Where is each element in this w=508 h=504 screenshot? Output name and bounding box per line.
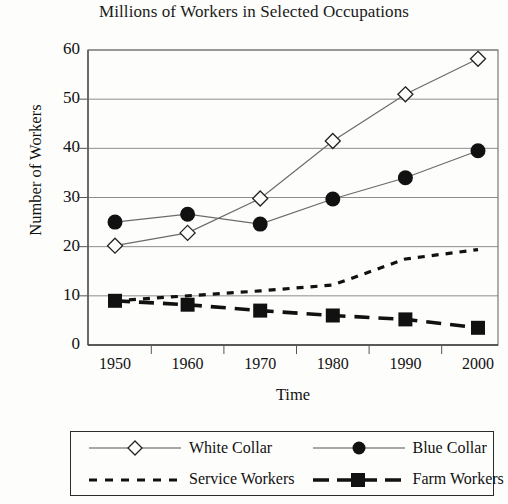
data-point-blue-collar xyxy=(108,215,123,230)
data-point-blue-collar xyxy=(471,143,486,158)
legend-item-blue-collar: Blue Collar xyxy=(295,438,504,458)
legend-item-farm-workers: Farm Workers xyxy=(295,469,504,489)
data-point-farm-workers xyxy=(398,312,412,326)
legend-swatch-service-workers xyxy=(87,469,183,489)
plot-area xyxy=(0,0,508,504)
legend-label-blue-collar: Blue Collar xyxy=(413,439,487,457)
data-point-farm-workers xyxy=(181,298,195,312)
series-line-blue-collar xyxy=(115,151,478,224)
legend-swatch-blue-collar xyxy=(311,438,407,458)
legend-label-service-workers: Service Workers xyxy=(189,470,295,488)
data-point-white-collar xyxy=(180,225,195,240)
chart-legend: White Collar Blue Collar Service Workers xyxy=(70,431,494,496)
legend-item-service-workers: Service Workers xyxy=(71,469,295,489)
legend-label-farm-workers: Farm Workers xyxy=(413,470,504,488)
series-line-farm-workers xyxy=(115,301,478,328)
data-point-farm-workers xyxy=(108,294,122,308)
data-point-blue-collar xyxy=(180,207,195,222)
legend-item-white-collar: White Collar xyxy=(71,438,295,458)
chart-figure: Millions of Workers in Selected Occupati… xyxy=(0,0,508,504)
data-point-farm-workers xyxy=(471,321,485,335)
data-point-white-collar xyxy=(325,134,340,149)
legend-swatch-farm-workers xyxy=(311,469,407,489)
data-point-farm-workers xyxy=(253,304,267,318)
legend-swatch-white-collar xyxy=(87,438,183,458)
series-line-white-collar xyxy=(115,59,478,246)
data-point-blue-collar xyxy=(398,170,413,185)
data-point-white-collar xyxy=(253,191,268,206)
data-point-blue-collar xyxy=(253,217,268,232)
data-point-blue-collar xyxy=(325,192,340,207)
series-line-service-workers xyxy=(115,250,478,301)
legend-label-white-collar: White Collar xyxy=(189,439,272,457)
data-point-farm-workers xyxy=(326,309,340,323)
data-point-white-collar xyxy=(108,238,123,253)
data-point-white-collar xyxy=(471,51,486,66)
